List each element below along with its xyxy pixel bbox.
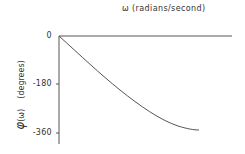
- phase-curve: [59, 36, 199, 130]
- chart-plot-area: [0, 0, 245, 154]
